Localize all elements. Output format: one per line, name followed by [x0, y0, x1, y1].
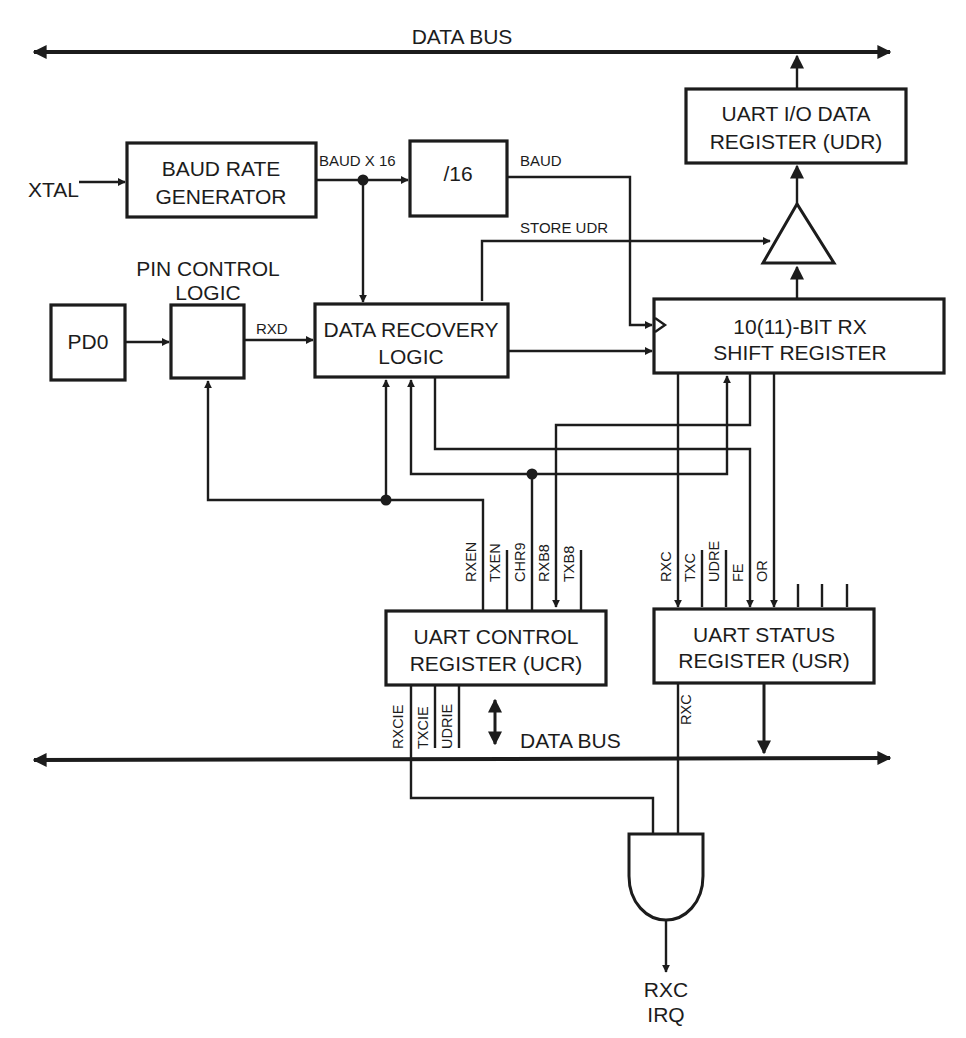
bit-rxcie: RXCIE — [390, 704, 406, 749]
rxc-out-label: RXC — [678, 694, 694, 725]
divider-label: /16 — [443, 162, 472, 185]
data-recovery-label-2: LOGIC — [378, 345, 443, 368]
divider-block: /16 — [410, 141, 507, 216]
udr-block: UART I/O DATA REGISTER (UDR) — [686, 89, 906, 163]
data-recovery-label-1: DATA RECOVERY — [323, 318, 498, 341]
pin-control-label-2: LOGIC — [175, 281, 240, 304]
bit-rxc: RXC — [658, 551, 674, 582]
bit-fe: FE — [730, 563, 746, 582]
chr9-to-recovery-wire — [411, 380, 532, 474]
udr-label-1: UART I/O DATA — [722, 102, 871, 125]
uart-receiver-diagram: DATA BUS UART I/O DATA REGISTER (UDR) XT… — [0, 0, 966, 1038]
shift-register-label-1: 10(11)-BIT RX — [733, 315, 866, 338]
shift-register-block: 10(11)-BIT RX SHIFT REGISTER — [654, 299, 944, 373]
usr-block: UART STATUS REGISTER (USR) — [654, 609, 874, 683]
store-udr-label: STORE UDR — [520, 219, 608, 236]
ucr-label-2: REGISTER (UCR) — [410, 652, 583, 675]
baud-x16-label: BAUD X 16 — [319, 152, 396, 169]
bit-chr9: CHR9 — [512, 543, 528, 582]
bit-txen: TXEN — [487, 543, 503, 582]
usr-label-2: REGISTER (USR) — [678, 649, 850, 672]
bit-txb8: TXB8 — [561, 546, 577, 582]
rxd-label: RXD — [256, 320, 288, 337]
ucr-label-1: UART CONTROL — [414, 625, 579, 648]
baud-to-shift-clock-wire — [507, 177, 652, 325]
ucr-block: UART CONTROL REGISTER (UCR) — [386, 611, 606, 685]
bottom-data-bus — [34, 758, 890, 760]
brg-label-2: GENERATOR — [155, 185, 286, 208]
pd0-label: PD0 — [68, 330, 109, 353]
bit-txc: TXC — [682, 553, 698, 582]
baud-rate-generator-block: BAUD RATE GENERATOR — [127, 143, 316, 217]
pin-control-label-1: PIN CONTROL — [136, 257, 280, 280]
top-data-bus-label: DATA BUS — [412, 25, 513, 48]
shift-register-label-2: SHIFT REGISTER — [713, 341, 886, 364]
usr-label-1: UART STATUS — [693, 623, 835, 646]
store-udr-wire — [482, 241, 770, 301]
tristate-buffer-icon — [763, 204, 834, 263]
udr-label-2: REGISTER (UDR) — [710, 130, 883, 153]
data-recovery-block: DATA RECOVERY LOGIC — [315, 304, 508, 377]
bit-or: OR — [754, 560, 770, 582]
rxen-to-pin-control-wire — [208, 381, 386, 500]
usr-top-bit-labels: RXC TXC UDRE FE OR — [658, 541, 770, 582]
bit-udrie: UDRIE — [439, 704, 455, 749]
ucr-top-bit-labels: RXEN TXEN CHR9 RXB8 TXB8 — [463, 542, 577, 582]
bit-rxb8: RXB8 — [536, 544, 552, 582]
irq-label-1: RXC — [644, 978, 688, 1001]
pd0-block: PD0 — [51, 305, 125, 380]
xtal-label: XTAL — [28, 178, 79, 201]
pin-control-block — [171, 305, 244, 378]
bit-rxen: RXEN — [463, 542, 479, 582]
baud-label: BAUD — [520, 152, 562, 169]
bit-udre: UDRE — [706, 541, 722, 582]
bit-txcie: TXCIE — [415, 706, 431, 749]
bottom-data-bus-label: DATA BUS — [520, 729, 621, 752]
top-data-bus: DATA BUS — [34, 25, 890, 52]
ucr-bottom-bit-labels: RXCIE TXCIE UDRIE — [390, 704, 455, 749]
irq-label-2: IRQ — [647, 1003, 684, 1026]
brg-label-1: BAUD RATE — [162, 157, 281, 180]
and-gate-icon — [629, 834, 703, 920]
